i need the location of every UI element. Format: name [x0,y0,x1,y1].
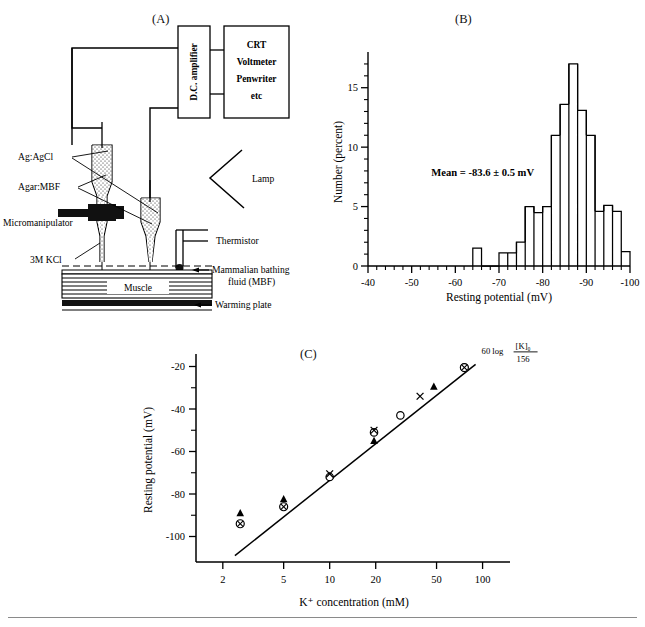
crt-line-4: etc [251,91,262,101]
x-axis-title: Resting potential (mV) [446,291,552,304]
y-tick-label: 10 [348,142,359,153]
mbf-label-line1: Mammalian bathing [212,264,290,275]
lamp-label: Lamp [252,173,275,184]
y-tick-label: -20 [171,361,185,372]
nernst-line [235,364,476,555]
equation-denominator: 156 [517,354,531,364]
ag-agcl-label: Ag:AgCl [18,151,54,162]
x-tick-label: -50 [405,277,419,288]
x-tick-label: 50 [431,574,442,585]
panel-b-histogram: -40-50-60-70-80-90-100051015 Mean = -83.… [330,0,645,320]
x-tick-label: 10 [324,574,335,585]
y-tick-label: -40 [171,404,185,415]
kcl-label: 3M KCl [30,254,62,265]
muscle-label: Muscle [124,282,152,293]
x-tick-label: -60 [448,277,462,288]
figure-container: (A) (B) (C) D.C. amplifier CRT Voltmeter… [0,0,645,627]
muscle-block: Muscle [62,274,212,298]
panel-a-schematic: D.C. amplifier CRT Voltmeter Penwriter e… [0,0,330,320]
scatter-points [236,364,468,528]
histogram-bars [473,64,630,266]
marker-open-circle [397,412,404,419]
x-tick-label: -80 [536,277,550,288]
marker-filled-triangle [430,382,438,389]
equation-numerator: [K]₀ [516,341,531,351]
warming-plate [62,300,212,306]
leader-kcl [75,243,100,259]
y-tick-label: 15 [348,82,359,93]
mean-annotation: Mean = -83.6 ± 0.5 mV [431,167,534,178]
marker-filled-triangle [280,495,288,502]
crt-line-1: CRT [247,40,267,50]
thermistor-probe [176,230,209,272]
x-tick-label: -90 [579,277,593,288]
bathing-fluid [62,266,212,274]
y-axis-title: Number (percent) [332,121,345,203]
y-tick-label: -100 [166,531,185,542]
micromanipulator-label: Micromanipulator [3,217,74,228]
amplifier-label: D.C. amplifier [189,43,199,101]
x-tick-label: 5 [281,574,286,585]
x-tick-label: 100 [475,574,491,585]
y-axis-title: Resting potential (mV) [142,407,155,513]
crt-line-2: Voltmeter [237,57,277,67]
left-electrode [72,122,112,272]
footer-divider [8,617,637,618]
wire-electrode2-to-amplifier [150,108,178,198]
y-tick-label: -60 [171,446,185,457]
crt-line-3: Penwriter [236,74,276,84]
y-tick-label: 0 [353,261,358,272]
equation-prefix: 60 log [482,346,504,356]
y-tick-label: 5 [353,201,358,212]
equation-label: 60 log[K]₀156 [482,341,538,364]
marker-filled-triangle [370,437,378,444]
x-tick-label: -100 [620,277,639,288]
agar-mbf-label: Agar:MBF [18,181,60,192]
scatter-axes: 25102050100-20-40-60-80-100 [166,354,510,585]
x-axis-title: K⁺ concentration (mM) [299,596,409,609]
mbf-label-line2: fluid (MBF) [228,276,275,288]
x-tick-label: 20 [370,574,381,585]
x-tick-label: -40 [361,277,375,288]
fit-line [235,364,476,555]
x-tick-label: 2 [220,574,225,585]
panel-c-scatter: 25102050100-20-40-60-80-100 60 log[K]₀15… [130,330,550,627]
y-tick-label: -80 [171,489,185,500]
warming-plate-label: Warming plate [215,299,272,310]
thermistor-label: Thermistor [216,235,259,246]
wire-left-electrode [72,48,102,128]
lamp-icon [210,150,244,208]
right-electrode [141,180,160,271]
marker-filled-triangle [236,509,244,516]
x-tick-label: -70 [492,277,506,288]
wire-electrode1-to-amplifier [72,48,178,145]
